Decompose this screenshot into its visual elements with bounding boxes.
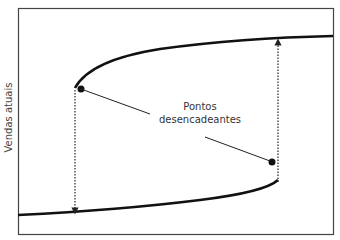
upper-branch-curve bbox=[75, 36, 333, 88]
lower-branch-curve bbox=[18, 180, 278, 215]
pointer-line-lower bbox=[205, 137, 270, 161]
pointer-line-upper bbox=[81, 89, 150, 114]
trigger-points-annotation: Pontos desencadeantes bbox=[150, 100, 250, 126]
annotation-line-1: Pontos bbox=[150, 100, 250, 113]
y-axis-label: Vendas atuais bbox=[3, 78, 14, 158]
lower-trigger-point bbox=[269, 159, 276, 166]
annotation-line-2: desencadeantes bbox=[150, 113, 250, 126]
